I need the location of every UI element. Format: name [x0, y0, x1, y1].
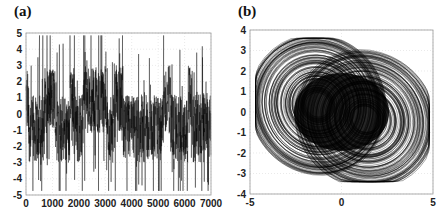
y-tick-label: 0 — [16, 109, 22, 120]
y-tick-label: 0 — [240, 107, 246, 118]
x-tick-label: 5 — [430, 197, 436, 208]
y-tick-label: 5 — [16, 28, 22, 39]
y-tick-label: -3 — [237, 168, 246, 179]
y-tick-label: 3 — [240, 45, 246, 56]
y-tick-label: -5 — [13, 190, 22, 201]
y-tick-label: -3 — [13, 157, 22, 168]
x-tick-label: 0 — [23, 198, 29, 209]
signal-line — [26, 35, 211, 191]
x-tick-label: 2000 — [68, 198, 91, 209]
x-tick-label: 3000 — [94, 198, 117, 209]
time-series-plot: 543210-1-2-3-4-5010002000300040005000600… — [0, 0, 224, 216]
y-tick-label: 2 — [16, 76, 22, 87]
y-tick-label: 4 — [16, 44, 22, 55]
x-tick-label: 6000 — [173, 198, 196, 209]
y-tick-label: 1 — [16, 92, 22, 103]
y-tick-label: 2 — [240, 66, 246, 77]
x-tick-label: 0 — [339, 197, 345, 208]
x-tick-label: 7000 — [200, 198, 223, 209]
attractor-core — [294, 73, 389, 151]
y-tick-label: -2 — [13, 141, 22, 152]
y-tick-label: -4 — [13, 173, 22, 184]
y-tick-label: 1 — [240, 86, 246, 97]
x-tick-label: -5 — [246, 197, 255, 208]
x-tick-label: 5000 — [147, 198, 170, 209]
attractor-plot: 43210-1-2-3-4-505 — [224, 0, 448, 216]
y-tick-label: 3 — [16, 60, 22, 71]
y-tick-label: -1 — [13, 125, 22, 136]
y-tick-label: -1 — [237, 127, 246, 138]
y-tick-label: 4 — [240, 25, 246, 36]
y-tick-label: -2 — [237, 148, 246, 159]
panel-b-phase-portrait: (b) 43210-1-2-3-4-505 — [224, 0, 448, 216]
x-tick-label: 1000 — [41, 198, 64, 209]
panel-a-time-series: (a) 543210-1-2-3-4-501000200030004000500… — [0, 0, 224, 216]
x-tick-label: 4000 — [121, 198, 144, 209]
